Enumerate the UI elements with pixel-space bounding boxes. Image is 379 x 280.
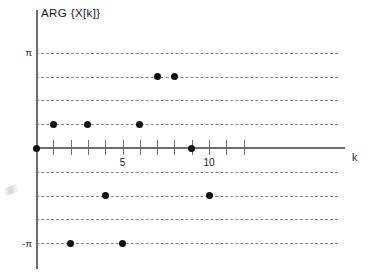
data-point [84, 121, 91, 128]
scan-artifact [3, 184, 19, 197]
data-point [33, 145, 40, 152]
x-tick-label: 10 [203, 157, 214, 168]
gridline [36, 53, 338, 54]
gridline [36, 77, 338, 78]
x-axis-title: k [352, 151, 357, 163]
x-tick [105, 140, 106, 155]
x-tick [123, 140, 124, 155]
y-tick-label-pi: π [25, 47, 32, 58]
x-tick [140, 140, 141, 155]
gridline [36, 196, 338, 197]
data-point [119, 240, 126, 247]
data-point [50, 121, 57, 128]
x-tick [71, 140, 72, 155]
x-tick [226, 140, 227, 155]
data-point [171, 73, 178, 80]
x-tick [88, 140, 89, 155]
x-tick [244, 140, 245, 155]
x-tick [209, 140, 210, 155]
x-tick [53, 140, 54, 155]
gridline [36, 243, 338, 244]
phase-spectrum-figure: ARG {X[k]} k π -π 510 [0, 0, 379, 280]
data-point [136, 121, 143, 128]
data-point [206, 192, 213, 199]
y-tick-label-negative-pi: -π [22, 238, 32, 249]
data-point [67, 240, 74, 247]
y-axis-title: ARG {X[k]} [41, 7, 101, 19]
data-point [188, 145, 195, 152]
x-tick-label: 5 [120, 157, 126, 168]
gridline [36, 219, 338, 220]
x-tick [157, 140, 158, 155]
data-point [154, 73, 161, 80]
gridline [36, 100, 338, 101]
data-point [102, 192, 109, 199]
gridline [36, 124, 338, 125]
gridline [36, 172, 338, 173]
y-axis-line [36, 10, 38, 269]
x-tick [174, 140, 175, 155]
